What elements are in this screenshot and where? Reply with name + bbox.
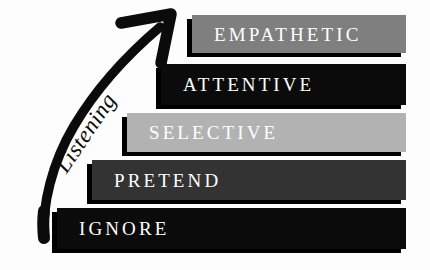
step-ignore-label: IGNORE [57,219,169,238]
step-pretend: PRETEND [87,164,401,204]
step-empathetic: EMPATHETIC [187,19,401,57]
step-attentive-bar[interactable]: ATTENTIVE [161,64,406,105]
listening-levels-diagram: IGNORE PRETEND SELECTIVE ATTENTIVE EMPAT… [0,0,430,270]
step-empathetic-label: EMPATHETIC [192,25,361,44]
step-attentive-label: ATTENTIVE [161,75,314,94]
step-empathetic-bar[interactable]: EMPATHETIC [192,15,406,53]
step-selective: SELECTIVE [122,117,401,156]
step-selective-bar[interactable]: SELECTIVE [127,113,406,152]
step-pretend-label: PRETEND [92,171,221,190]
step-ignore-bar[interactable]: IGNORE [57,208,406,249]
step-ignore: IGNORE [52,212,401,253]
step-pretend-bar[interactable]: PRETEND [92,160,406,200]
step-selective-label: SELECTIVE [127,123,278,142]
step-attentive: ATTENTIVE [156,68,401,109]
